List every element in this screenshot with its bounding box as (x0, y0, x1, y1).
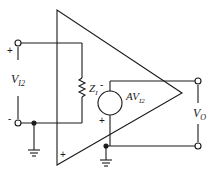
output-top-terminal (195, 78, 201, 84)
input-minus-label: - (8, 113, 11, 124)
impedance-label: ZI (89, 82, 98, 97)
circuit-diagram: + - VI2 ZI - + AVI2 + VO (0, 0, 214, 179)
amplifier-plus-label: + (60, 149, 66, 160)
source-gain-label: AVI2 (125, 90, 145, 105)
source-plus-label: + (99, 115, 105, 126)
output-ground-icon (100, 160, 112, 166)
output-bottom-terminal (195, 143, 201, 149)
input-ground-icon (28, 150, 40, 156)
dependent-voltage-source (98, 91, 122, 115)
impedance-resistor (79, 78, 85, 97)
output-voltage-label: VO (193, 106, 206, 122)
amplifier-triangle (57, 10, 182, 165)
input-plus-label: + (7, 45, 13, 56)
input-plus-terminal (15, 40, 21, 46)
input-voltage-label: VI2 (11, 72, 25, 88)
input-minus-terminal (15, 120, 21, 126)
source-minus-label: - (100, 79, 103, 90)
